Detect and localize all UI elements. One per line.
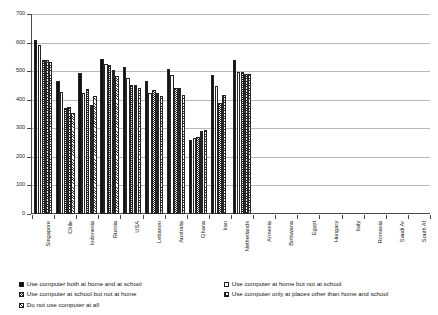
x-tick-mark	[430, 215, 431, 219]
x-tick-mark	[364, 215, 365, 219]
legend-item[interactable]: Use computer both at home and at school	[19, 279, 224, 290]
legend-swatch-icon	[224, 282, 229, 287]
x-tick-label: Armenia	[266, 221, 272, 242]
x-tick-mark	[98, 215, 99, 219]
y-tick-label: 500	[0, 68, 25, 74]
bar-group	[408, 14, 430, 214]
x-tick-label: Singapore	[45, 221, 51, 247]
x-tick-mark	[187, 215, 188, 219]
y-tick-label: 300	[0, 125, 25, 131]
x-tick-mark	[319, 215, 320, 219]
legend-label: Use computer at home but not at school	[232, 281, 342, 288]
bar-group	[231, 14, 253, 214]
x-axis-labels: SingaporeChileIndonesiaRussiaUSALebanonA…	[32, 215, 430, 275]
bar-group	[165, 14, 187, 214]
legend-label: Use computer both at home and at school	[27, 281, 142, 288]
bar	[71, 113, 74, 214]
bar-group	[275, 14, 297, 214]
x-tick-mark	[120, 215, 121, 219]
x-tick-mark	[275, 215, 276, 219]
bar-group	[98, 14, 120, 214]
x-tick-label: Botswana	[288, 221, 294, 246]
x-tick-mark	[143, 215, 144, 219]
legend-label: Use computer only at places other than h…	[232, 291, 389, 298]
legend-item[interactable]: Use computer only at places other than h…	[224, 290, 429, 301]
bar-group	[386, 14, 408, 214]
x-tick-mark	[297, 215, 298, 219]
legend-item[interactable]: Use computer at home but not at school	[224, 279, 429, 290]
bar-group	[54, 14, 76, 214]
x-tick-label: Australia	[178, 221, 184, 243]
x-tick-mark	[231, 215, 232, 219]
bar-group	[209, 14, 231, 214]
legend-swatch-icon	[19, 282, 24, 287]
chart-legend: Use computer both at home and at schoolU…	[19, 279, 429, 313]
bar	[222, 95, 225, 214]
legend-column-left: Use computer both at home and at schoolU…	[19, 279, 224, 311]
y-tick-label: 600	[0, 40, 25, 46]
y-tick-mark	[27, 214, 31, 215]
legend-label: Do not use computer at all	[27, 302, 99, 309]
x-tick-label: Netherlands	[244, 221, 250, 251]
bar	[204, 130, 207, 214]
x-tick-label: Ghana	[200, 221, 206, 238]
bar	[160, 96, 163, 214]
x-tick-label: USA	[134, 221, 140, 233]
x-tick-mark	[386, 215, 387, 219]
bar	[49, 62, 52, 214]
legend-item[interactable]: Do not use computer at all	[19, 300, 224, 311]
x-tick-label: Egypt	[311, 221, 317, 235]
legend-swatch-icon	[19, 303, 24, 308]
bar-groups	[32, 14, 430, 214]
x-tick-label: Lebanon	[156, 221, 162, 243]
x-tick-mark	[32, 215, 33, 219]
bar	[182, 95, 185, 214]
x-tick-mark	[165, 215, 166, 219]
bar-group	[297, 14, 319, 214]
x-tick-label: South Af	[421, 221, 427, 242]
bar-group	[120, 14, 142, 214]
legend-swatch-icon	[19, 292, 24, 297]
x-tick-label: Indonesia	[89, 221, 95, 245]
x-tick-mark	[342, 215, 343, 219]
x-tick-mark	[54, 215, 55, 219]
bar-chart: 0100200300400500600700 SingaporeChileInd…	[0, 0, 438, 315]
y-tick-label: 0	[0, 211, 25, 217]
x-tick-mark	[76, 215, 77, 219]
x-tick-mark	[253, 215, 254, 219]
bar	[138, 88, 141, 214]
bar-group	[319, 14, 341, 214]
legend-item[interactable]: Use computer at school but not at home	[19, 290, 224, 301]
bar-group	[342, 14, 364, 214]
bar-group	[76, 14, 98, 214]
y-tick-label: 200	[0, 154, 25, 160]
bar-group	[32, 14, 54, 214]
bar	[248, 74, 251, 214]
x-tick-label: Russia	[112, 221, 118, 238]
bar-group	[253, 14, 275, 214]
bar-group	[364, 14, 386, 214]
x-tick-label: Saudi Ar	[399, 221, 405, 242]
bar	[93, 96, 96, 214]
bar-group	[187, 14, 209, 214]
legend-swatch-icon	[224, 292, 229, 297]
bar	[115, 76, 118, 214]
bar-group	[143, 14, 165, 214]
x-tick-label: Italy	[355, 221, 361, 231]
legend-label: Use computer at school but not at home	[27, 291, 137, 298]
x-tick-label: Iran	[222, 221, 228, 231]
x-tick-mark	[209, 215, 210, 219]
x-tick-mark	[408, 215, 409, 219]
x-tick-label: Romania	[377, 221, 383, 244]
y-tick-label: 400	[0, 97, 25, 103]
y-tick-label: 700	[0, 11, 25, 17]
legend-column-right: Use computer at home but not at schoolUs…	[224, 279, 429, 300]
y-tick-label: 100	[0, 182, 25, 188]
x-tick-label: Hungary	[333, 221, 339, 242]
x-tick-label: Chile	[67, 221, 73, 234]
